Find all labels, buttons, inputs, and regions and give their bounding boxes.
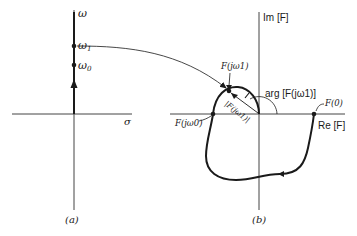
angle-arc <box>250 97 277 114</box>
f0-label: F(0) <box>325 99 343 108</box>
f-jw0-point <box>211 112 216 117</box>
f0-point <box>312 112 317 117</box>
magnitude-arrowhead-icon <box>231 93 238 99</box>
panel-b-caption: (b) <box>252 215 266 225</box>
omega-axis-label: ω <box>78 8 87 19</box>
omega0-point <box>72 63 77 68</box>
im-axis-label: Im [F] <box>263 13 289 23</box>
panel-a-axes <box>12 10 132 210</box>
mapping-arrow <box>77 46 226 88</box>
magnitude-tick <box>245 93 249 98</box>
omega1-point <box>72 44 77 49</box>
frequency-response-curve <box>206 87 314 180</box>
f-jw1-leader <box>229 73 230 86</box>
f0-leader <box>316 104 324 111</box>
curve-direction-arrow-icon <box>278 171 284 177</box>
omega0-label: ω0 <box>78 60 92 72</box>
re-axis-label: Re [F] <box>318 121 345 131</box>
angle-label: arg [F(jω1)] <box>265 89 316 99</box>
up-arrow-icon <box>71 79 78 88</box>
f-jw1-label: F(jω1) <box>221 62 249 71</box>
panel-a-caption: (a) <box>65 215 79 225</box>
panel-b-axes <box>170 12 345 210</box>
omega1-label: ω1 <box>78 40 92 52</box>
sigma-axis-label: σ <box>124 117 131 127</box>
f-jw0-label: F(jω0) <box>175 119 203 128</box>
